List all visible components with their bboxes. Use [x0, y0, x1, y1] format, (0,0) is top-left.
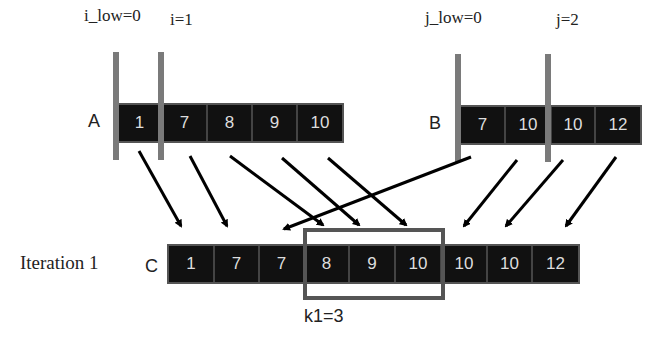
arrow-icon: [230, 156, 323, 225]
arrow-icon: [328, 158, 406, 225]
arrow-icon: [139, 151, 181, 226]
arrow-icon: [566, 157, 616, 226]
arrow-icon: [284, 157, 471, 229]
arrows: [0, 0, 665, 344]
arrow-icon: [506, 160, 563, 226]
arrow-icon: [190, 156, 227, 226]
arrow-icon: [464, 160, 517, 226]
